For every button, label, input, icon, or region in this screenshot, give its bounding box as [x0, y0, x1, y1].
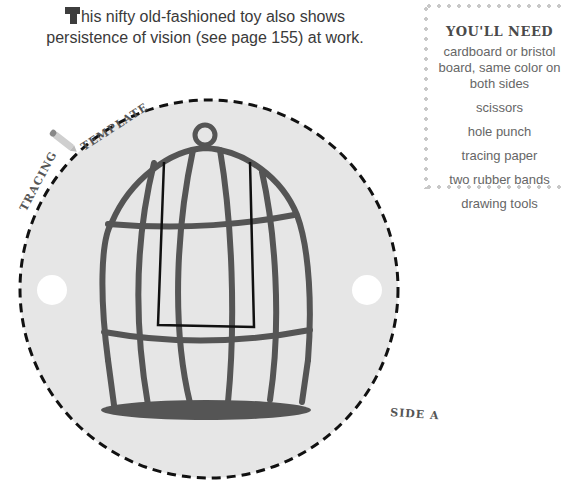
- pencil-icon: [49, 129, 79, 155]
- tracing-template-figure: TRACING TEMPLATE SIDE A: [0, 0, 567, 483]
- left-hole: [37, 275, 67, 305]
- template-disc: [20, 100, 398, 478]
- cage-base: [101, 400, 311, 420]
- right-hole: [352, 275, 382, 305]
- side-label: SIDE A: [390, 406, 440, 422]
